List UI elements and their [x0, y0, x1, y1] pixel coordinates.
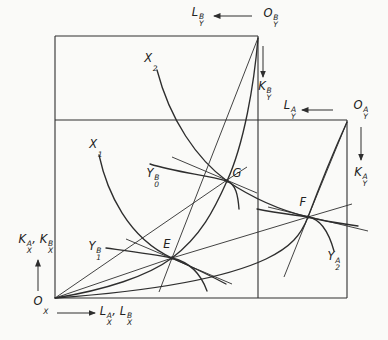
tangency-point-e — [170, 256, 173, 259]
ray-oya-through-f — [284, 122, 347, 277]
isoquant-y1-b — [106, 248, 207, 291]
tangency-point-f — [306, 215, 309, 218]
edgeworth-box-diagram: LBYOBYKBYLAYOAYKAYX2X1YB0YB1YA2GEFOXKAX,… — [0, 0, 388, 340]
isoquant-y2-a — [257, 209, 334, 251]
contract-curve-box-b — [55, 38, 258, 298]
tangent-line-at-g — [172, 157, 257, 193]
tangency-point-g — [225, 179, 228, 182]
diagram-canvas — [0, 0, 388, 340]
